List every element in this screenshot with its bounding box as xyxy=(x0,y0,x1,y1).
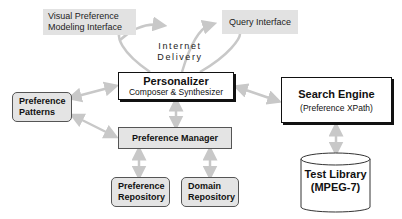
test-library-line1: Test Library xyxy=(301,168,370,181)
visual-preference-line2: Modeling Interface xyxy=(48,22,136,33)
domain-repository-box: Domain Repository xyxy=(181,177,239,207)
search-engine-box: Search Engine (Preference XPath) xyxy=(281,77,392,123)
preference-repository-box: Preference Repository xyxy=(111,177,170,207)
personalizer-subtitle: Composer & Synthesizer xyxy=(129,87,223,98)
test-library-label: Test Library (MPEG-7) xyxy=(301,168,370,194)
visual-preference-interface-box: Visual Preference Modeling Interface xyxy=(43,9,136,35)
delivery-line2: Delivery xyxy=(154,52,206,63)
personalizer-box: Personalizer Composer & Synthesizer xyxy=(118,72,234,100)
search-engine-subtitle: (Preference XPath) xyxy=(300,102,373,114)
internet-delivery-label: Internet Delivery xyxy=(154,41,206,63)
test-library-line2: (MPEG-7) xyxy=(301,181,370,194)
preference-patterns-box: Preference Patterns xyxy=(12,92,72,122)
visual-preference-line1: Visual Preference xyxy=(48,11,136,22)
search-engine-title: Search Engine xyxy=(298,86,374,102)
query-interface-label: Query Interface xyxy=(229,17,291,28)
personalizer-title: Personalizer xyxy=(143,75,208,87)
query-interface-box: Query Interface xyxy=(222,10,298,34)
domain-repository-line1: Domain xyxy=(188,181,238,192)
preference-patterns-line1: Preference xyxy=(19,96,71,107)
preference-manager-label: Preference Manager xyxy=(132,133,218,143)
domain-repository-line2: Repository xyxy=(188,192,238,203)
preference-manager-box: Preference Manager xyxy=(118,127,232,149)
preference-repository-line2: Repository xyxy=(118,192,169,203)
delivery-line1: Internet xyxy=(154,41,206,52)
preference-repository-line1: Preference xyxy=(118,181,169,192)
preference-patterns-line2: Patterns xyxy=(19,107,71,118)
